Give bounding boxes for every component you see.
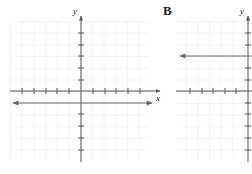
x-axis-label-a: x: [156, 93, 160, 103]
panel-label-b: B: [163, 3, 172, 19]
graph-b: [176, 16, 252, 162]
graph-a: [10, 16, 160, 162]
y-axis-label-a: y: [73, 6, 77, 16]
graphs-canvas: [0, 0, 252, 174]
y-axis-label-b: y: [240, 6, 244, 16]
